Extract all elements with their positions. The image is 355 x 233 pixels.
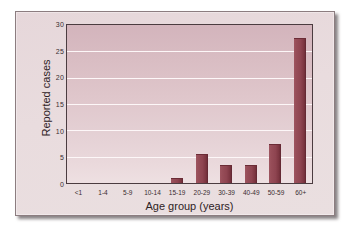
bar-50-59[interactable] [269, 144, 281, 184]
y-tick-label: 5 [60, 154, 64, 161]
bar-60plus[interactable] [294, 38, 306, 183]
x-tick-label: 5-9 [115, 187, 140, 198]
plot-area [66, 24, 313, 184]
y-axis-title: Reported cases [40, 23, 52, 173]
y-tick-label: 20 [56, 74, 64, 81]
x-tick-label: 40-49 [239, 187, 264, 198]
x-tick-label: 15-19 [165, 187, 190, 198]
y-tick-label: 25 [56, 47, 64, 54]
bar-slot-50-59 [263, 25, 288, 183]
bar-20-29[interactable] [196, 154, 208, 183]
bar-15-19[interactable] [171, 178, 183, 183]
x-axis-title: Age group (years) [66, 200, 313, 212]
bar-slot-5-9 [116, 25, 141, 183]
y-tick-label: 30 [56, 21, 64, 28]
bars-layer [67, 25, 312, 183]
y-tick-label: 15 [56, 101, 64, 108]
y-tick-label: 10 [56, 127, 64, 134]
bar-slot-10-14 [141, 25, 166, 183]
x-tick-label: 30-39 [214, 187, 239, 198]
x-tick-label: 20-29 [190, 187, 215, 198]
x-tick-label: <1 [66, 187, 91, 198]
bar-slot-lt1 [67, 25, 92, 183]
x-tick-label: 1-4 [91, 187, 116, 198]
bar-slot-40-49 [239, 25, 264, 183]
bar-40-49[interactable] [245, 165, 257, 183]
x-axis-tick-labels: <1 1-4 5-9 10-14 15-19 20-29 30-39 40-49… [66, 187, 313, 198]
bar-slot-30-39 [214, 25, 239, 183]
bar-30-39[interactable] [220, 165, 232, 183]
figure-card: 30 25 20 15 10 5 0 [15, 11, 335, 216]
bar-slot-15-19 [165, 25, 190, 183]
bar-slot-60plus [288, 25, 313, 183]
chart-screenshot: 30 25 20 15 10 5 0 [0, 0, 355, 233]
x-tick-label: 60+ [288, 187, 313, 198]
x-tick-label: 50-59 [264, 187, 289, 198]
bar-slot-1-4 [92, 25, 117, 183]
x-tick-label: 10-14 [140, 187, 165, 198]
y-tick-label: 0 [60, 181, 64, 188]
bar-slot-20-29 [190, 25, 215, 183]
